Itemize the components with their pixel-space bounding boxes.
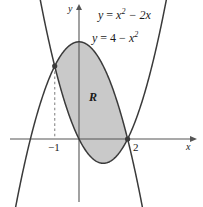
y-axis-label: y bbox=[68, 4, 72, 14]
x-axis-label: x bbox=[186, 142, 190, 152]
x-tick-label-2: 2 bbox=[133, 142, 139, 153]
eq2-exponent: 2 bbox=[134, 30, 138, 39]
x-tick-label-neg1: −1 bbox=[48, 142, 60, 153]
eq2-minus: − bbox=[119, 31, 126, 45]
curve-label-upward-parabola: y = x2 − 2x bbox=[98, 8, 151, 21]
curve-label-downward-parabola: y = 4 − x2 bbox=[92, 31, 138, 44]
eq1-rest: − 2x bbox=[128, 8, 150, 22]
math-figure: y = x2 − 2x y = 4 − x2 y x −1 2 R bbox=[0, 0, 203, 207]
region-label-R: R bbox=[89, 91, 97, 103]
